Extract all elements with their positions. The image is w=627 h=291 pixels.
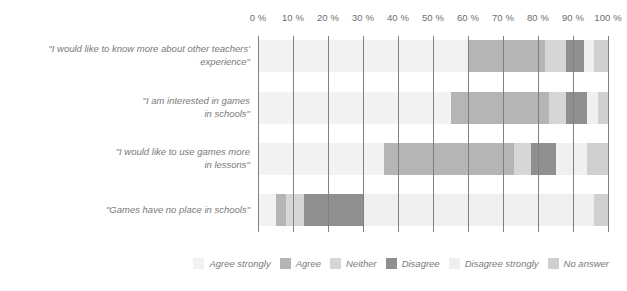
x-tick-label-80: 80 % [527, 12, 549, 23]
bar-segment [258, 143, 384, 175]
legend-label: Agree [296, 258, 321, 269]
legend-label: Disagree [402, 258, 440, 269]
bar-segment [286, 194, 304, 226]
legend-item-5[interactable]: No answer [548, 258, 609, 269]
bar-segment [587, 92, 598, 124]
gridline-30 [363, 36, 364, 232]
legend-swatch-icon [193, 258, 204, 269]
legend-item-2[interactable]: Neither [330, 258, 377, 269]
bar-segment [587, 143, 608, 175]
bar-segment [549, 92, 567, 124]
category-label-2: "I would like to use games more in lesso… [10, 145, 250, 171]
bar-segment [451, 92, 549, 124]
bar-segment [384, 143, 514, 175]
legend-swatch-icon [386, 258, 397, 269]
x-tick-label-90: 90 % [562, 12, 584, 23]
bar-segment [304, 194, 364, 226]
x-tick-label-0: 0 % [250, 12, 267, 23]
legend-swatch-icon [449, 258, 460, 269]
legend-swatch-icon [330, 258, 341, 269]
legend-label: No answer [564, 258, 609, 269]
chart-legend: Agree stronglyAgreeNeitherDisagreeDisagr… [0, 253, 627, 273]
bar-segment [584, 40, 595, 72]
gridline-40 [398, 36, 399, 232]
x-tick-label-100: 100 % [594, 12, 621, 23]
legend-item-4[interactable]: Disagree strongly [449, 258, 539, 269]
bar-segment [514, 143, 532, 175]
plot-area [258, 36, 608, 232]
x-tick-label-10: 10 % [282, 12, 304, 23]
bar-segment [594, 40, 608, 72]
gridline-60 [468, 36, 469, 232]
x-tick-label-50: 50 % [422, 12, 444, 23]
gridline-0 [258, 36, 259, 232]
gridline-80 [538, 36, 539, 232]
stacked-bar-chart: 0 %10 %20 %30 %40 %50 %60 %70 %80 %90 %1… [0, 0, 627, 291]
bar-segment [556, 143, 588, 175]
gridline-20 [328, 36, 329, 232]
gridline-70 [503, 36, 504, 232]
bar-segment [566, 40, 584, 72]
bar-segment [598, 92, 609, 124]
legend-label: Neither [346, 258, 377, 269]
x-tick-label-70: 70 % [492, 12, 514, 23]
gridline-100 [608, 36, 609, 232]
legend-swatch-icon [548, 258, 559, 269]
bar-segment [545, 40, 566, 72]
legend-item-3[interactable]: Disagree [386, 258, 440, 269]
legend-label: Agree strongly [209, 258, 270, 269]
bar-segment [258, 194, 276, 226]
gridline-50 [433, 36, 434, 232]
x-tick-label-30: 30 % [352, 12, 374, 23]
gridline-10 [293, 36, 294, 232]
bar-segment [594, 194, 608, 226]
legend-item-0[interactable]: Agree strongly [193, 258, 270, 269]
category-label-0: "I would like to know more about other t… [10, 42, 250, 68]
bar-segment [566, 92, 587, 124]
x-axis-tick-labels: 0 %10 %20 %30 %40 %50 %60 %70 %80 %90 %1… [0, 12, 627, 28]
x-tick-label-20: 20 % [317, 12, 339, 23]
bar-segment [468, 40, 545, 72]
category-label-1: "I am interested in games in schools" [10, 94, 250, 120]
bar-segment [258, 92, 451, 124]
legend-item-1[interactable]: Agree [280, 258, 321, 269]
gridline-90 [573, 36, 574, 232]
bar-segment [276, 194, 287, 226]
legend-swatch-icon [280, 258, 291, 269]
legend-label: Disagree strongly [465, 258, 539, 269]
x-tick-label-60: 60 % [457, 12, 479, 23]
category-label-3: "Games have no place in schools" [10, 203, 250, 216]
bar-segment [531, 143, 556, 175]
x-tick-label-40: 40 % [387, 12, 409, 23]
